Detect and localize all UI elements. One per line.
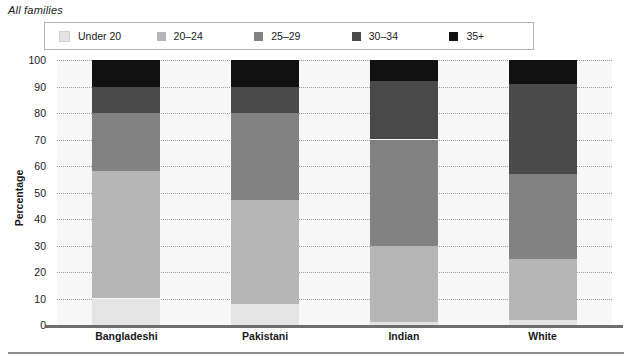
legend-swatch-icon — [449, 32, 458, 41]
y-axis-ticks: 0102030405060708090100 — [0, 60, 52, 325]
y-axis-tick-label: 100 — [28, 54, 46, 66]
x-axis-line — [45, 325, 623, 328]
legend-swatch-icon — [157, 32, 166, 41]
bar-segment[interactable] — [231, 113, 299, 200]
legend-item-label: 25–29 — [271, 30, 300, 42]
y-axis-tick-label: 20 — [34, 266, 46, 278]
bar-segment[interactable] — [370, 246, 438, 323]
bar-segment[interactable] — [92, 87, 160, 114]
legend-item[interactable]: 25–29 — [240, 30, 338, 42]
chart-legend: Under 2020–2425–2930–3435+ — [44, 22, 534, 50]
chart-caption: All families — [8, 4, 63, 16]
bar-pakistani[interactable] — [231, 60, 299, 325]
bar-segment[interactable] — [509, 259, 577, 320]
bar-bangladeshi[interactable] — [92, 60, 160, 325]
bar-segment[interactable] — [231, 200, 299, 303]
bar-segment[interactable] — [509, 174, 577, 259]
bar-segment[interactable] — [370, 81, 438, 139]
y-axis-tick-label: 50 — [34, 187, 46, 199]
legend-item[interactable]: 35+ — [435, 30, 533, 42]
y-axis-tick-label: 80 — [34, 107, 46, 119]
legend-item-label: 20–24 — [174, 30, 203, 42]
plot-area — [57, 60, 612, 325]
bar-segment[interactable] — [231, 304, 299, 325]
bar-segment[interactable] — [231, 60, 299, 87]
bar-white[interactable] — [509, 60, 577, 325]
x-axis-tick-label: Pakistani — [242, 330, 288, 342]
legend-item-label: 30–34 — [369, 30, 398, 42]
y-axis-tick-label: 40 — [34, 213, 46, 225]
bar-segment[interactable] — [509, 84, 577, 174]
y-axis-title: Percentage — [13, 153, 25, 243]
bar-segment[interactable] — [92, 171, 160, 298]
y-axis-tick-label: 10 — [34, 293, 46, 305]
x-axis-tick-label: Indian — [388, 330, 419, 342]
y-axis-tick-label: 70 — [34, 134, 46, 146]
bar-segment[interactable] — [92, 60, 160, 87]
bar-segment[interactable] — [92, 113, 160, 171]
bar-segment[interactable] — [370, 60, 438, 81]
bar-indian[interactable] — [370, 60, 438, 325]
legend-item[interactable]: 30–34 — [338, 30, 436, 42]
legend-swatch-icon — [59, 31, 70, 42]
x-axis-tick-label: White — [528, 330, 557, 342]
footer-divider — [8, 352, 624, 354]
bar-segment[interactable] — [92, 299, 160, 326]
legend-item[interactable]: 20–24 — [143, 30, 241, 42]
y-axis-tick-label: 60 — [34, 160, 46, 172]
bar-segment[interactable] — [509, 60, 577, 84]
x-axis-tick-label: Bangladeshi — [95, 330, 157, 342]
legend-swatch-icon — [352, 32, 361, 41]
x-axis-ticks: BangladeshiPakistaniIndianWhite — [57, 330, 612, 346]
legend-item-label: 35+ — [466, 30, 484, 42]
legend-item-label: Under 20 — [78, 30, 121, 42]
legend-item[interactable]: Under 20 — [45, 30, 143, 42]
y-axis-tick-label: 30 — [34, 240, 46, 252]
bar-segment[interactable] — [370, 140, 438, 246]
bar-segment[interactable] — [231, 87, 299, 114]
legend-swatch-icon — [254, 32, 263, 41]
y-axis-tick-label: 90 — [34, 81, 46, 93]
